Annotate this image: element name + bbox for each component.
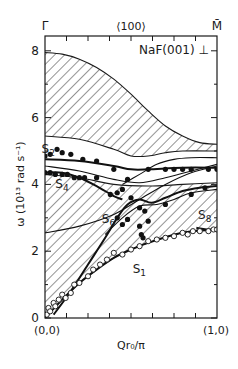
open-data-point bbox=[72, 282, 77, 287]
filled-data-point bbox=[137, 205, 142, 210]
open-data-point bbox=[56, 297, 61, 302]
filled-data-point bbox=[180, 167, 185, 172]
gamma-point-label: Γ̄ bbox=[42, 19, 49, 33]
open-data-point bbox=[111, 250, 116, 255]
filled-data-point bbox=[72, 175, 77, 180]
filled-data-point bbox=[171, 167, 176, 172]
open-data-point bbox=[97, 262, 102, 267]
filled-data-point bbox=[94, 158, 99, 163]
y-tick-label: 6 bbox=[31, 111, 39, 125]
filled-data-point bbox=[189, 167, 194, 172]
open-data-point bbox=[77, 280, 82, 285]
filled-data-point bbox=[163, 202, 168, 207]
x-axis-label: Qr₀/π bbox=[117, 339, 145, 352]
x-tick-label-right: (1,0) bbox=[203, 324, 229, 337]
filled-data-point bbox=[111, 167, 116, 172]
filled-data-point bbox=[68, 152, 73, 157]
annotation-s2: S2 bbox=[42, 142, 55, 158]
bulk-bands bbox=[45, 52, 217, 318]
phonon-dispersion-chart: Γ̄ M̄ ⟨100⟩ NaF(001) ⊥ 02468 ω (10¹³ rad… bbox=[0, 0, 238, 369]
open-data-point bbox=[197, 229, 202, 234]
open-data-point bbox=[163, 235, 168, 240]
annotation-s1: S1 bbox=[133, 262, 146, 278]
m-point-label: M̄ bbox=[212, 19, 222, 33]
filled-data-point bbox=[77, 175, 82, 180]
filled-data-point bbox=[140, 235, 145, 240]
filled-data-point bbox=[128, 195, 133, 200]
filled-data-point bbox=[206, 167, 211, 172]
filled-data-point bbox=[146, 167, 151, 172]
open-data-point bbox=[48, 309, 53, 314]
filled-data-point bbox=[137, 224, 142, 229]
open-data-point bbox=[171, 234, 176, 239]
bulk-band-area bbox=[45, 52, 217, 156]
open-data-point bbox=[120, 252, 125, 257]
open-data-point bbox=[190, 229, 195, 234]
filled-data-point bbox=[82, 175, 87, 180]
y-tick-label: 0 bbox=[31, 311, 39, 325]
filled-data-point bbox=[94, 175, 99, 180]
filled-data-point bbox=[142, 209, 147, 214]
filled-data-point bbox=[125, 177, 130, 182]
filled-data-point bbox=[115, 190, 120, 195]
filled-data-point bbox=[48, 170, 53, 175]
filled-data-point bbox=[54, 147, 59, 152]
open-data-point bbox=[154, 237, 159, 242]
filled-data-point bbox=[80, 157, 85, 162]
filled-data-point bbox=[120, 222, 125, 227]
curve-bulk-edge-3 bbox=[122, 158, 217, 185]
open-data-point bbox=[146, 239, 151, 244]
filled-data-point bbox=[120, 187, 125, 192]
open-data-point bbox=[68, 290, 73, 295]
open-data-point bbox=[104, 257, 109, 262]
open-data-point bbox=[185, 232, 190, 237]
filled-data-point bbox=[108, 192, 113, 197]
open-data-point bbox=[137, 244, 142, 249]
y-tick-label: 4 bbox=[31, 177, 39, 191]
direction-label: ⟨100⟩ bbox=[116, 20, 146, 33]
filled-data-point bbox=[60, 150, 65, 155]
y-tick-label: 8 bbox=[31, 44, 39, 58]
x-tick-label-left: (0,0) bbox=[34, 324, 60, 337]
open-data-point bbox=[85, 274, 90, 279]
open-data-point bbox=[180, 230, 185, 235]
filled-data-point bbox=[125, 217, 130, 222]
chart-title: NaF(001) ⊥ bbox=[139, 43, 209, 57]
open-data-point bbox=[128, 247, 133, 252]
filled-data-point bbox=[146, 219, 151, 224]
filled-data-point bbox=[115, 215, 120, 220]
open-data-point bbox=[63, 295, 68, 300]
open-data-point bbox=[91, 267, 96, 272]
open-data-point bbox=[53, 304, 58, 309]
y-tick-label: 2 bbox=[31, 244, 39, 258]
filled-data-point bbox=[65, 172, 70, 177]
filled-data-point bbox=[189, 192, 194, 197]
filled-data-point bbox=[163, 167, 168, 172]
filled-data-point bbox=[202, 185, 207, 190]
y-axis-label: ω (10¹³ rad s⁻¹) bbox=[14, 141, 27, 226]
y-tick-labels: 02468 bbox=[31, 44, 39, 325]
open-data-point bbox=[206, 229, 211, 234]
